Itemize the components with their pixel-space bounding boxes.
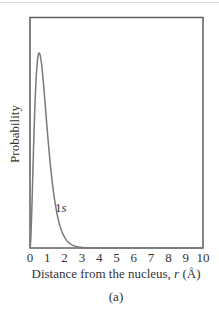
x-axis-unit: (Å)	[179, 266, 200, 281]
x-tick-label: 3	[79, 250, 86, 266]
x-tick-label: 5	[113, 250, 120, 266]
x-tick-label: 7	[148, 250, 155, 266]
curve-label-1s: 1s	[55, 200, 67, 216]
y-axis-label: Probability	[7, 105, 23, 163]
x-tick-label: 0	[27, 250, 34, 266]
x-tick-label: 6	[131, 250, 138, 266]
x-tick-label: 8	[165, 250, 172, 266]
x-tick-label: 9	[182, 250, 189, 266]
x-axis-label-text: Distance from the nucleus,	[32, 266, 175, 281]
curve-1s	[30, 53, 203, 248]
curve-label-l: s	[62, 200, 67, 215]
x-tick-label: 2	[61, 250, 68, 266]
x-tick-label: 1	[44, 250, 51, 266]
figure-caption: (a)	[109, 289, 123, 305]
x-tick-label: 4	[96, 250, 103, 266]
x-tick-label: 10	[197, 250, 210, 266]
x-axis-label: Distance from the nucleus, r (Å)	[32, 266, 201, 282]
